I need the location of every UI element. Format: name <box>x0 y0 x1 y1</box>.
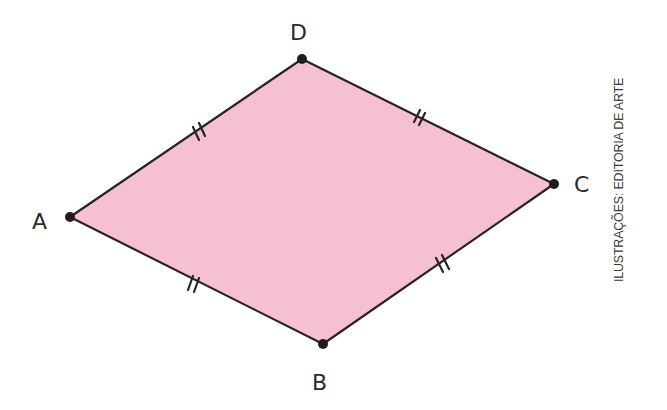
vertex-label-d: D <box>290 20 307 45</box>
vertex-point-a <box>65 212 75 222</box>
vertex-label-b: B <box>312 370 327 395</box>
rhombus-abcd <box>70 59 554 344</box>
vertex-label-c: C <box>574 172 589 197</box>
rhombus-diagram: A B C D <box>0 0 667 410</box>
vertex-point-b <box>318 339 328 349</box>
vertex-label-a: A <box>32 209 47 234</box>
vertex-point-c <box>549 179 559 189</box>
illustration-credit: ILUSTRAÇÕES: EDITORIA DE ARTE <box>612 78 626 282</box>
vertex-point-d <box>297 54 307 64</box>
